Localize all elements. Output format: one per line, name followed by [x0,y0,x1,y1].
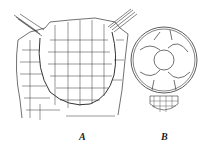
panel-a-label: A [79,131,86,142]
panel-b-drawing [131,27,197,112]
panel-b-label: B [161,131,168,142]
panel-a-drawing [14,9,137,120]
botanical-figure [0,0,208,149]
